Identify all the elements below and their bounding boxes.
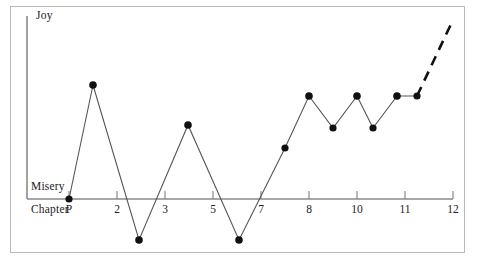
data-point-rise-1: [281, 144, 288, 151]
data-point-peak-2: [184, 121, 192, 129]
data-point-dip-1: [329, 124, 336, 131]
x-tick-label-11: 11: [399, 203, 410, 215]
x-tick-label-P: P: [66, 203, 72, 215]
data-point-dip-2: [369, 124, 376, 131]
projected-future-dashed-line: [417, 22, 452, 96]
x-tick-label-5: 5: [210, 203, 216, 215]
data-point-trough-1: [135, 236, 143, 244]
x-tick-label-12: 12: [447, 203, 459, 215]
data-point-peak-4: [353, 92, 361, 100]
x-tick-label-10: 10: [351, 203, 363, 215]
data-point-peak-1: [89, 81, 97, 89]
data-point-chapter-P: [65, 195, 72, 202]
emotional-arc-line: [69, 85, 417, 240]
x-tick-label-2: 2: [114, 203, 120, 215]
data-point-peak-5: [393, 92, 401, 100]
data-point-trough-2: [235, 236, 243, 244]
x-tick-label-8: 8: [306, 203, 312, 215]
x-tick-label-3: 3: [162, 203, 168, 215]
chart-plot-area: [0, 0, 483, 259]
x-axis-title: Chapter: [31, 203, 69, 215]
y-axis-top-label: Joy: [36, 9, 53, 21]
data-point-peak-3: [305, 92, 313, 100]
chart-figure: Joy Misery Chapter P 2 3 5 7 8 10 11 12: [0, 0, 483, 259]
x-tick-label-7: 7: [258, 203, 264, 215]
y-axis-bottom-label: Misery: [31, 180, 65, 192]
data-point-plateau: [413, 92, 420, 99]
